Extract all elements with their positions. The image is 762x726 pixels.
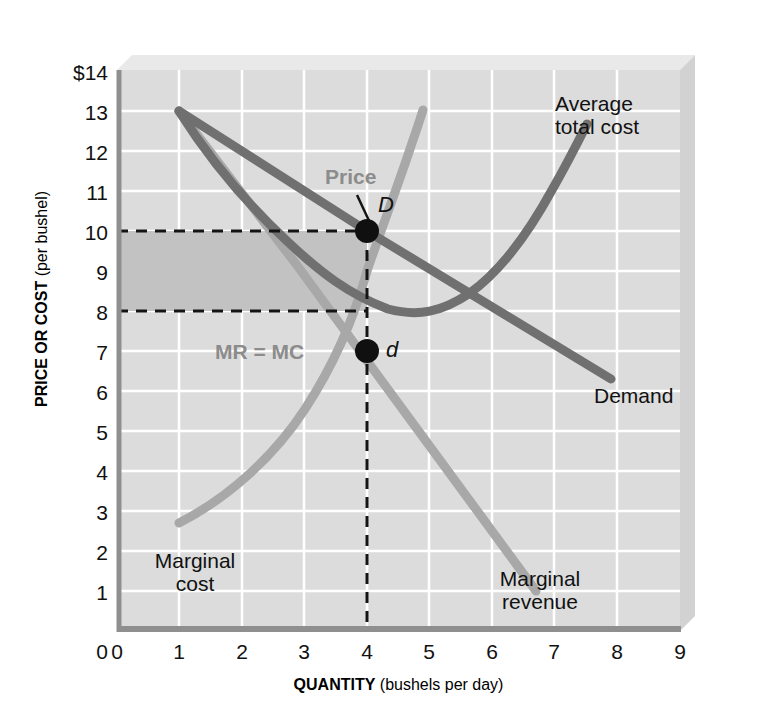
y-axis-title: PRICE OR COST (per bushel) — [33, 139, 51, 459]
y-axis-title-sub: (per bushel) — [33, 191, 50, 281]
y-tick-12: 12 — [85, 142, 108, 163]
mr-mc-annotation-label: MR = MC — [215, 341, 304, 362]
marginal-revenue-label: Marginal revenue — [455, 568, 625, 613]
x-tick-2: 2 — [227, 641, 257, 662]
x-tick-0: 0 — [102, 641, 132, 662]
x-axis-title: QUANTITY (bushels per day) — [117, 676, 680, 694]
x-axis-title-sub: (bushels per day) — [375, 676, 503, 693]
y-tick-10: 10 — [85, 222, 108, 243]
economic-profit-rectangle — [117, 231, 367, 311]
panel-right-bevel — [680, 55, 695, 631]
y-tick-13: 13 — [85, 102, 108, 123]
demand-label: Demand — [594, 385, 673, 408]
x-tick-5: 5 — [414, 641, 444, 662]
point-d-marker — [355, 339, 379, 363]
average-total-cost-label: Average total cost — [555, 93, 639, 138]
y-axis-title-bold: PRICE OR COST — [33, 281, 50, 407]
y-tick-8: 8 — [96, 302, 108, 323]
x-tick-3: 3 — [289, 641, 319, 662]
price-annotation-label: Price — [325, 166, 376, 187]
y-tick-4: 4 — [96, 462, 108, 483]
y-tick-9: 9 — [96, 262, 108, 283]
point-d-label: d — [386, 339, 398, 361]
x-tick-9: 9 — [665, 641, 695, 662]
chart-canvas — [0, 0, 762, 726]
y-tick-2: 2 — [96, 542, 108, 563]
x-axis-title-bold: QUANTITY — [294, 676, 376, 693]
x-tick-4: 4 — [352, 641, 382, 662]
y-tick-6: 6 — [96, 382, 108, 403]
point-D-marker — [355, 219, 379, 243]
point-D-label: D — [378, 194, 394, 216]
x-tick-6: 6 — [477, 641, 507, 662]
y-tick-7: 7 — [96, 342, 108, 363]
y-tick-14: $14 — [73, 62, 108, 83]
x-tick-7: 7 — [539, 641, 569, 662]
economics-chart-figure: $14 13 12 11 10 9 8 7 6 5 4 3 2 1 0 0 1 … — [0, 0, 762, 726]
y-tick-11: 11 — [86, 182, 108, 203]
y-axis-tick-labels: $14 13 12 11 10 9 8 7 6 5 4 3 2 1 0 — [0, 0, 108, 726]
y-tick-3: 3 — [96, 502, 108, 523]
y-tick-1: 1 — [96, 582, 108, 603]
marginal-cost-label: Marginal cost — [120, 550, 270, 595]
x-tick-8: 8 — [602, 641, 632, 662]
x-tick-1: 1 — [164, 641, 194, 662]
panel-top-bevel — [117, 55, 695, 70]
y-tick-5: 5 — [96, 422, 108, 443]
